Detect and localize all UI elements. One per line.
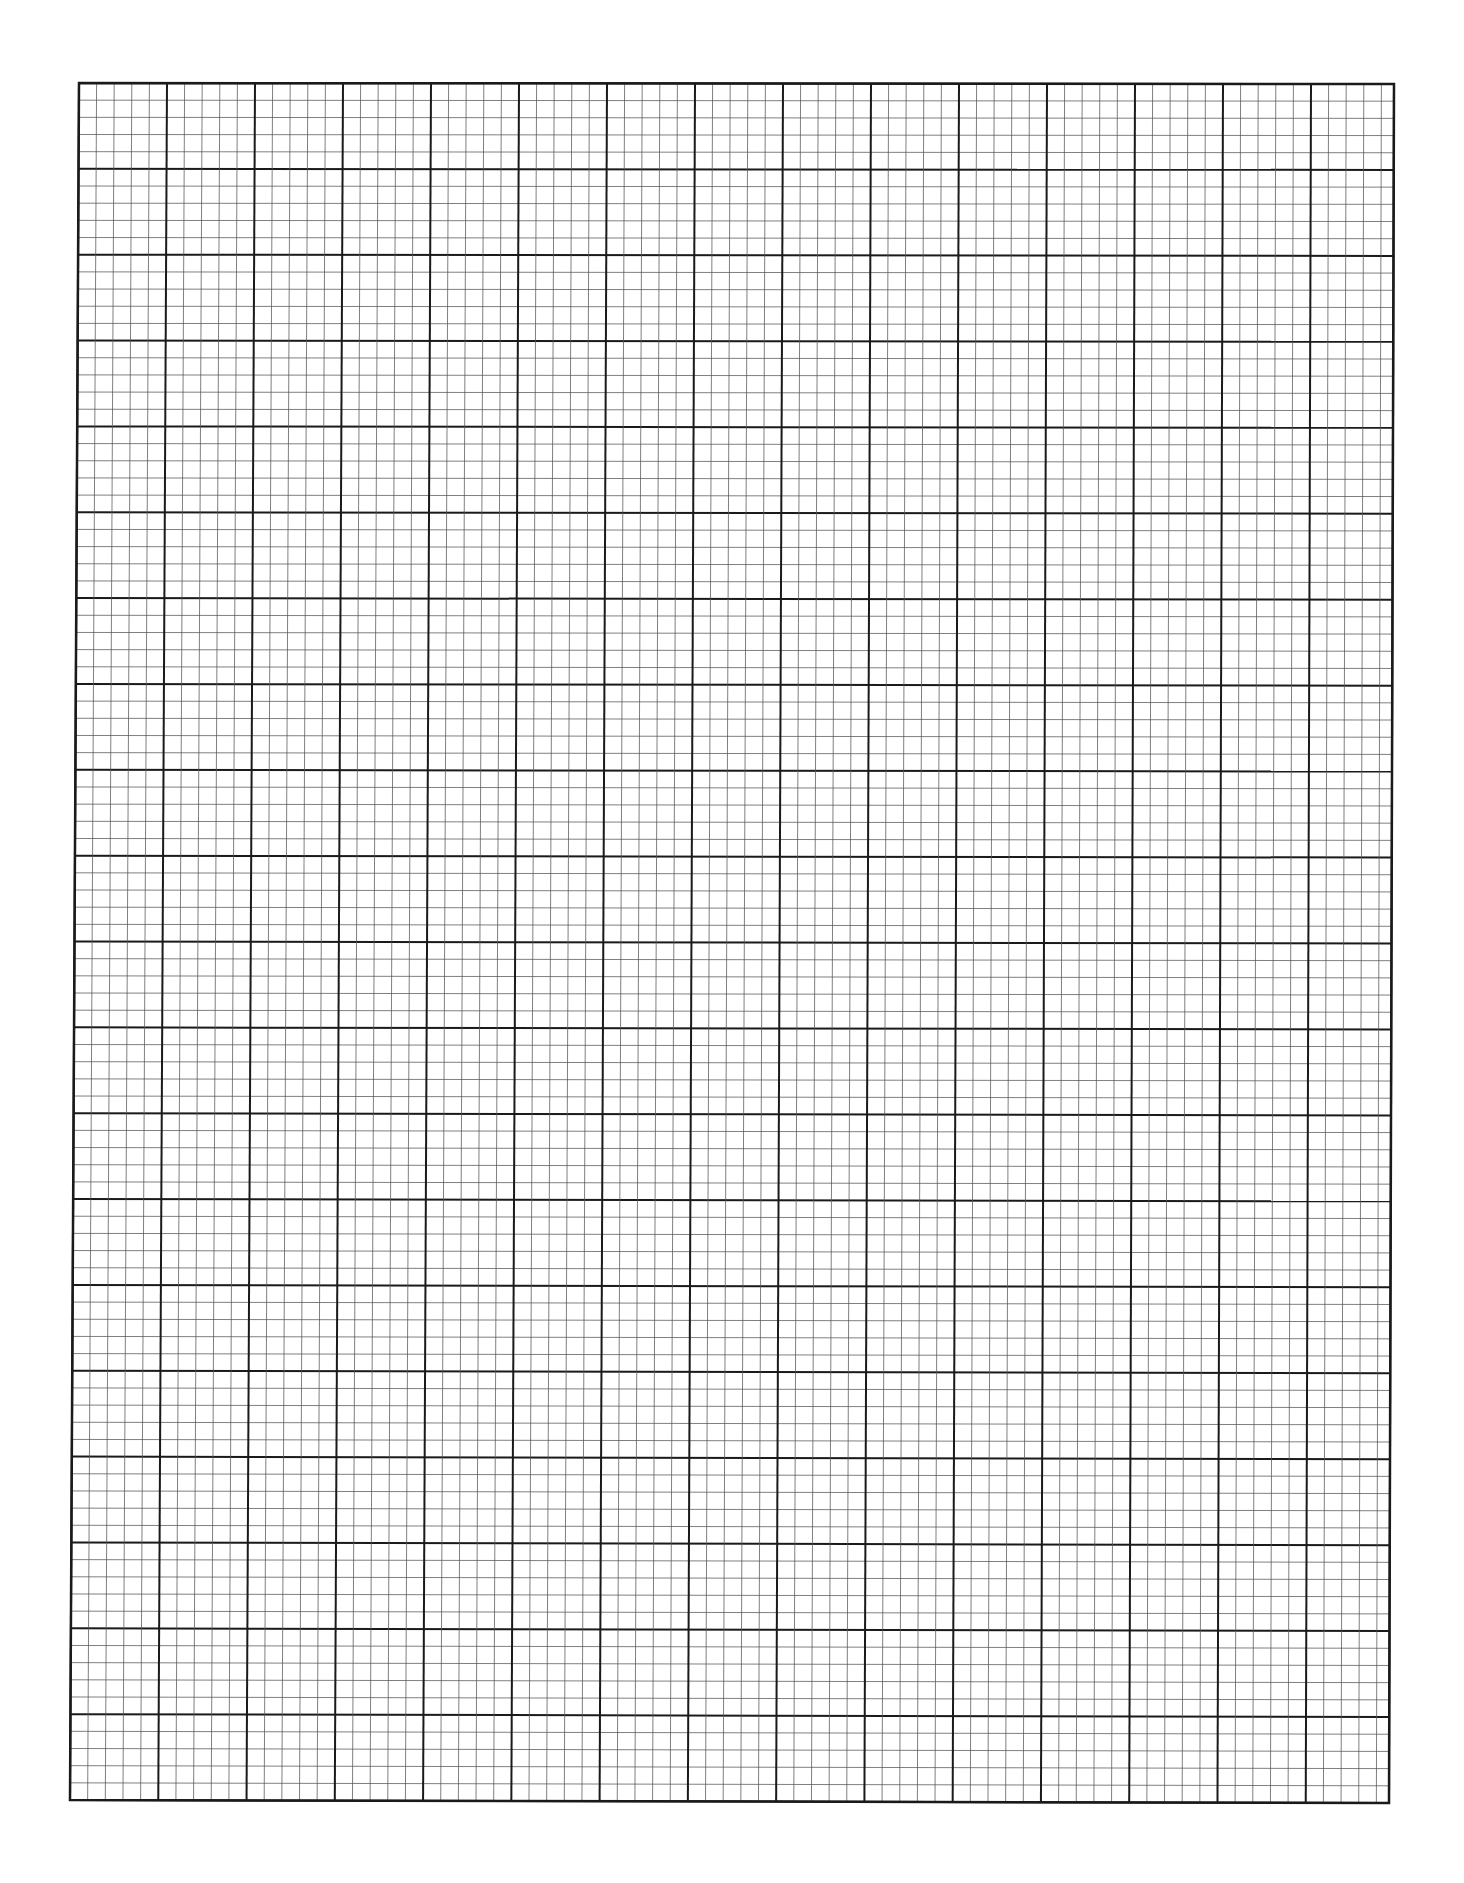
major-horizontal-line xyxy=(71,1542,1389,1545)
minor-horizontal-line xyxy=(73,1148,1390,1150)
minor-horizontal-line xyxy=(73,1165,1391,1167)
minor-horizontal-line xyxy=(71,1525,1389,1528)
minor-horizontal-line xyxy=(76,632,1392,634)
minor-horizontal-line xyxy=(78,358,1394,359)
minor-horizontal-line xyxy=(78,289,1393,290)
minor-horizontal-line xyxy=(78,238,1393,239)
minor-horizontal-line xyxy=(77,409,1393,410)
minor-horizontal-line xyxy=(73,1251,1391,1253)
minor-horizontal-line xyxy=(76,581,1392,583)
minor-horizontal-line xyxy=(71,1577,1389,1580)
grid-lines xyxy=(70,83,1394,1803)
minor-horizontal-line xyxy=(73,1319,1391,1321)
major-horizontal-line xyxy=(75,770,1392,772)
minor-horizontal-line xyxy=(75,787,1392,789)
minor-horizontal-line xyxy=(70,1731,1389,1734)
minor-horizontal-line xyxy=(75,821,1392,823)
minor-horizontal-line xyxy=(71,1663,1390,1666)
major-horizontal-line xyxy=(74,1113,1391,1115)
minor-horizontal-line xyxy=(74,1062,1391,1064)
major-horizontal-line xyxy=(76,684,1392,686)
minor-horizontal-line xyxy=(74,976,1391,978)
minor-horizontal-line xyxy=(71,1594,1390,1597)
minor-horizontal-line xyxy=(71,1645,1390,1648)
minor-horizontal-line xyxy=(74,1096,1391,1098)
grid xyxy=(0,0,1464,1883)
minor-horizontal-line xyxy=(76,650,1392,652)
minor-horizontal-line xyxy=(74,1079,1391,1081)
minor-horizontal-line xyxy=(72,1405,1390,1408)
minor-horizontal-line xyxy=(74,1010,1391,1012)
minor-horizontal-line xyxy=(74,1130,1391,1132)
minor-horizontal-line xyxy=(76,667,1392,669)
major-horizontal-line xyxy=(70,1714,1389,1717)
major-horizontal-line xyxy=(72,1371,1390,1374)
minor-horizontal-line xyxy=(70,1766,1389,1769)
major-horizontal-line xyxy=(71,1628,1390,1631)
minor-horizontal-line xyxy=(79,100,1394,101)
minor-horizontal-line xyxy=(77,375,1393,376)
minor-horizontal-line xyxy=(78,272,1393,273)
minor-horizontal-line xyxy=(72,1422,1390,1425)
major-horizontal-line xyxy=(74,1027,1391,1029)
minor-horizontal-line xyxy=(75,804,1392,806)
minor-horizontal-line xyxy=(77,461,1393,462)
minor-horizontal-line xyxy=(78,203,1393,204)
minor-horizontal-line xyxy=(73,1268,1391,1270)
minor-horizontal-line xyxy=(72,1336,1390,1338)
minor-horizontal-line xyxy=(78,186,1393,187)
minor-horizontal-line xyxy=(70,1748,1389,1751)
minor-horizontal-line xyxy=(73,1216,1391,1218)
major-horizontal-line xyxy=(73,1199,1391,1201)
minor-horizontal-line xyxy=(73,1233,1391,1235)
major-horizontal-line xyxy=(76,598,1392,600)
minor-horizontal-line xyxy=(75,924,1392,926)
minor-horizontal-line xyxy=(74,993,1391,995)
minor-horizontal-line xyxy=(76,735,1393,737)
minor-horizontal-line xyxy=(77,529,1393,531)
major-horizontal-line xyxy=(75,942,1392,944)
minor-horizontal-line xyxy=(70,1783,1389,1786)
major-horizontal-line xyxy=(75,856,1392,858)
minor-horizontal-line xyxy=(73,1302,1391,1304)
minor-horizontal-line xyxy=(75,890,1392,892)
minor-horizontal-line xyxy=(76,701,1392,703)
minor-horizontal-line xyxy=(76,615,1392,617)
minor-horizontal-line xyxy=(72,1508,1390,1511)
minor-horizontal-line xyxy=(72,1388,1390,1391)
minor-horizontal-line xyxy=(78,323,1394,324)
major-horizontal-line xyxy=(77,512,1393,514)
minor-horizontal-line xyxy=(71,1611,1390,1614)
minor-horizontal-line xyxy=(73,1182,1391,1184)
minor-horizontal-line xyxy=(79,135,1394,136)
minor-horizontal-line xyxy=(71,1697,1390,1700)
minor-horizontal-line xyxy=(72,1474,1390,1477)
major-horizontal-line xyxy=(78,255,1393,256)
minor-horizontal-line xyxy=(77,547,1393,549)
minor-horizontal-line xyxy=(72,1439,1390,1442)
minor-horizontal-line xyxy=(77,444,1393,445)
minor-horizontal-line xyxy=(79,117,1394,118)
minor-horizontal-line xyxy=(75,838,1392,840)
major-horizontal-line xyxy=(78,341,1394,342)
minor-horizontal-line xyxy=(78,306,1394,307)
major-horizontal-line xyxy=(79,169,1394,170)
minor-horizontal-line xyxy=(78,220,1393,221)
minor-horizontal-line xyxy=(79,152,1394,153)
minor-horizontal-line xyxy=(71,1680,1390,1683)
minor-horizontal-line xyxy=(74,1045,1391,1047)
major-horizontal-line xyxy=(73,1285,1391,1287)
graph-paper-sheet xyxy=(0,0,1464,1883)
minor-horizontal-line xyxy=(76,718,1392,720)
minor-horizontal-line xyxy=(76,564,1392,566)
minor-horizontal-line xyxy=(77,392,1393,393)
major-horizontal-line xyxy=(72,1457,1390,1460)
minor-horizontal-line xyxy=(72,1491,1390,1494)
minor-horizontal-line xyxy=(72,1354,1390,1356)
minor-horizontal-line xyxy=(75,873,1392,875)
minor-horizontal-line xyxy=(75,907,1392,909)
major-horizontal-line xyxy=(77,426,1393,427)
minor-horizontal-line xyxy=(71,1560,1389,1563)
minor-horizontal-line xyxy=(74,959,1391,961)
minor-horizontal-line xyxy=(77,478,1393,479)
